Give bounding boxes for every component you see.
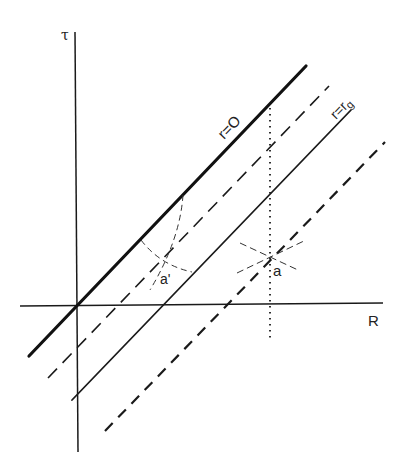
tau-axis-label: τ [61,27,69,43]
line-dashed-outer [105,142,385,431]
light-cone-a-line-1 [240,243,298,270]
line-r-g [72,110,351,400]
tau-axis [75,32,78,452]
r-axis [20,303,383,306]
spacetime-diagram: τ R r=O r=rg a' a [0,0,401,471]
line-dashed-inner [48,86,329,378]
light-cone-a-line-2 [237,240,306,273]
point-a-label: a [273,262,282,279]
r-axis-label: R [368,312,379,329]
point-a-prime-label: a' [160,271,170,287]
line-r-zero [29,66,306,356]
